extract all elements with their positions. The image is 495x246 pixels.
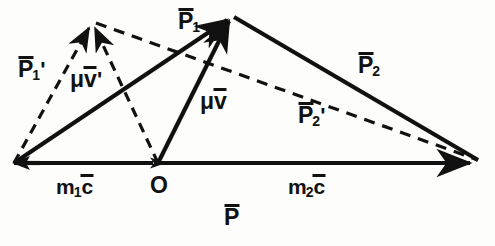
overbar <box>18 56 33 59</box>
overbar <box>83 66 96 69</box>
letter-c: c <box>81 175 93 198</box>
overbar <box>298 102 313 105</box>
overbar <box>224 204 239 207</box>
label-c-glyph: c <box>81 176 93 197</box>
label-P1-prime-glyph: P <box>18 58 33 81</box>
label-mu-v-glyph: μv <box>200 90 227 113</box>
vector-diagram-figure: P1' μv' P1 μv P2 P2' m1c O m2c P <box>0 0 495 246</box>
letter-m: m <box>288 175 307 198</box>
letter-c: c <box>313 175 325 198</box>
prime-mark: ' <box>40 57 45 82</box>
vector-P2 <box>234 17 478 160</box>
vector-mu-v-prime <box>95 28 158 163</box>
label-origin-O: O <box>150 174 168 197</box>
letter-m: m <box>56 175 75 198</box>
letter-P: P <box>224 204 239 230</box>
overbar <box>358 52 373 55</box>
letter-P: P <box>358 52 373 78</box>
overbar <box>81 174 94 177</box>
label-m1-c: m1c <box>56 176 93 199</box>
label-P-total: P <box>224 206 239 229</box>
subscript-2: 2 <box>306 184 314 200</box>
label-P2-glyph: P <box>358 54 373 77</box>
letter-P: P <box>18 56 33 82</box>
vector-P2-prime <box>96 23 478 160</box>
subscript-1: 1 <box>192 19 200 35</box>
label-mu-v: μv <box>200 90 227 113</box>
letters-mu-v: μv <box>200 88 227 114</box>
label-m2-c: m2c <box>288 176 325 199</box>
letter-P: P <box>298 102 313 128</box>
letter-P: P <box>178 8 193 34</box>
letters-mu-v: μv <box>70 66 97 92</box>
label-P1-glyph: P <box>178 10 193 33</box>
overbar <box>213 88 226 91</box>
subscript-2: 2 <box>312 113 320 129</box>
prime-mark: ' <box>320 103 325 128</box>
prime-mark: ' <box>97 67 102 92</box>
label-mu-v-prime: μv' <box>70 68 102 91</box>
subscript-2: 2 <box>372 63 380 79</box>
overbar <box>178 8 193 11</box>
label-P1-prime: P1' <box>18 58 45 82</box>
label-P2-prime: P2' <box>298 104 325 128</box>
vector-P1-prime <box>14 28 89 163</box>
subscript-1: 1 <box>74 184 82 200</box>
label-P1: P1 <box>178 10 200 34</box>
label-P-total-glyph: P <box>224 206 239 229</box>
label-c-glyph: c <box>313 176 325 197</box>
label-P2: P2 <box>358 54 380 78</box>
label-P2-prime-glyph: P <box>298 104 313 127</box>
label-mu-v-prime-glyph: μv <box>70 68 97 91</box>
overbar <box>313 174 326 177</box>
subscript-1: 1 <box>32 67 40 83</box>
diagram-canvas <box>0 0 495 246</box>
